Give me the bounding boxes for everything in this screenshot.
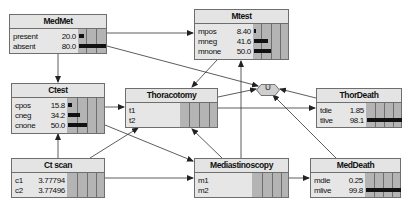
node-title: MedMet <box>10 15 106 29</box>
node-ctest[interactable]: Ctest cpos15.8 cneg34.2 cnone50.0 <box>11 83 105 134</box>
node-mtest[interactable]: Mtest mpos8.40 mneg41.6 mnone50.0 <box>194 9 289 60</box>
node-thoracotomy[interactable]: Thoracotomy t1 t2 <box>125 88 218 128</box>
probability-bars <box>365 173 400 197</box>
decision-bars <box>252 173 288 197</box>
utility-label: U <box>256 82 280 93</box>
decision-bars <box>67 173 104 197</box>
utility-node[interactable]: U <box>256 82 280 94</box>
probability-bars <box>67 98 104 133</box>
node-meddeath[interactable]: MedDeath mdie0.25 mlive99.8 <box>310 158 401 198</box>
node-title: MedDeath <box>311 159 400 173</box>
node-title: Mediastinoscopy <box>195 159 288 173</box>
node-title: Mtest <box>195 10 288 24</box>
node-medmet[interactable]: MedMet present 20.0 absent 80.0 <box>9 14 107 54</box>
node-title: Ct scan <box>12 159 104 173</box>
node-ctscan[interactable]: Ct scan c13.77794 c23.77496 <box>11 158 105 198</box>
probability-bars <box>78 29 106 53</box>
node-mediastinoscopy[interactable]: Mediastinoscopy m1 m2 <box>194 158 289 198</box>
node-title: ThorDeath <box>317 89 401 103</box>
probability-bars <box>366 103 401 127</box>
probability-bars <box>253 24 288 59</box>
node-thordeath[interactable]: ThorDeath tdie1.85 tlive98.1 <box>316 88 402 128</box>
node-title: Thoracotomy <box>126 89 217 103</box>
node-title: Ctest <box>12 84 104 98</box>
decision-bars <box>180 103 217 127</box>
